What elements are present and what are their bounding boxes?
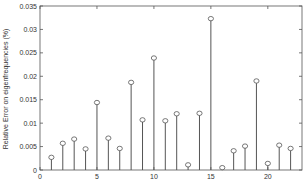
x-tick-label: 0	[38, 173, 42, 180]
y-tick-label: 0.035	[19, 3, 37, 10]
circle-marker-icon	[231, 149, 236, 153]
y-tick-label: 0.015	[19, 96, 37, 103]
circle-marker-icon	[185, 163, 190, 167]
y-tick-label: 0	[33, 167, 37, 174]
x-tick-label: 10	[150, 173, 158, 180]
circle-marker-icon	[242, 144, 247, 148]
circle-marker-icon	[83, 147, 88, 151]
circle-marker-icon	[94, 100, 99, 104]
x-tick-label: 20	[264, 173, 272, 180]
circle-marker-icon	[208, 16, 213, 20]
circle-marker-icon	[288, 146, 293, 150]
circle-marker-icon	[197, 111, 202, 115]
circle-marker-icon	[72, 137, 77, 141]
axes-box	[40, 6, 302, 170]
circle-marker-icon	[129, 80, 134, 84]
circle-marker-icon	[49, 155, 54, 159]
plot-area	[40, 6, 302, 170]
circle-marker-icon	[163, 119, 168, 123]
circle-marker-icon	[60, 141, 65, 145]
y-tick-label: 0.025	[19, 49, 37, 56]
circle-marker-icon	[174, 112, 179, 116]
circle-marker-icon	[151, 56, 156, 60]
stem-chart: 00.0050.010.0150.020.0250.030.035 051015…	[0, 0, 308, 188]
y-tick-label: 0.03	[23, 26, 37, 33]
y-axis-label: Relative Error on eigenfrequencies (%)	[2, 29, 10, 150]
y-tick-label: 0.02	[23, 73, 37, 80]
circle-marker-icon	[140, 118, 145, 122]
y-tick-label: 0.01	[23, 120, 37, 127]
circle-marker-icon	[277, 143, 282, 147]
circle-marker-icon	[117, 146, 122, 150]
x-tick-label: 15	[207, 173, 215, 180]
stem-point	[220, 165, 225, 170]
circle-marker-icon	[265, 161, 270, 165]
circle-marker-icon	[220, 165, 225, 169]
circle-marker-icon	[106, 136, 111, 140]
circle-marker-icon	[254, 79, 259, 83]
y-tick-label: 0.005	[19, 143, 37, 150]
x-tick-label: 5	[95, 173, 99, 180]
